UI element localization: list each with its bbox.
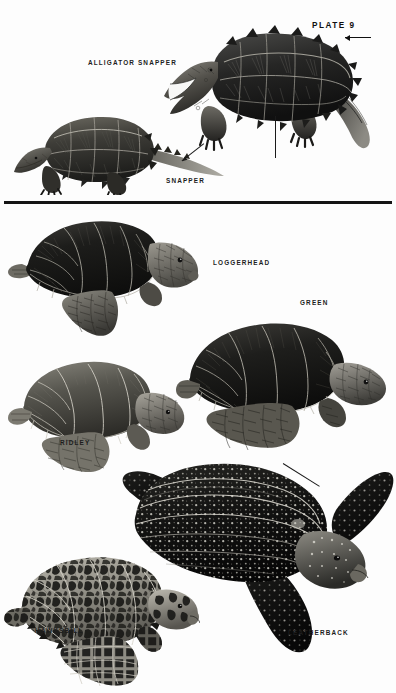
figure-label-ridley: RIDLEY	[60, 440, 90, 446]
plastron-pointer-line	[275, 116, 276, 158]
section-divider	[4, 201, 392, 204]
figure-label-leatherback: LEATHERBACK	[288, 630, 349, 636]
illustration-ridley	[6, 352, 186, 472]
figure-label-loggerhead: LOGGERHEAD	[213, 260, 270, 266]
plate-page: PLATE 9 ALLIGATOR SNAPPER	[0, 0, 396, 693]
figure-label-snapper: SNAPPER	[166, 178, 205, 184]
illustration-hawksbill	[4, 548, 200, 688]
figure-label-green: GREEN	[300, 300, 328, 306]
illustration-green	[176, 312, 396, 452]
figure-label-hawksbill: HAWKSBILL	[35, 628, 83, 634]
